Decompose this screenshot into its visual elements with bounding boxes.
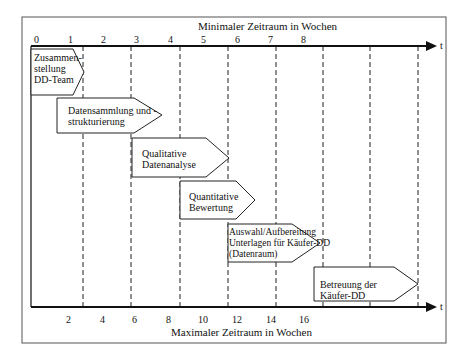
top-axis-title: Minimaler Zeitraum in Wochen	[198, 20, 337, 32]
top-tick-1: 1	[68, 35, 73, 45]
phase-label-5: Auswahl/Aufbereitung Unterlagen für Käuf…	[229, 227, 330, 260]
top-tick-4: 4	[168, 35, 173, 45]
bottom-tick-12: 12	[232, 315, 242, 325]
top-axis-arrowhead-icon	[426, 41, 437, 51]
bottom-tick-4: 4	[100, 315, 105, 325]
bottom-tick-8: 8	[166, 315, 171, 325]
bottom-tick-6: 6	[132, 315, 137, 325]
top-tick-0: 0	[34, 35, 39, 45]
top-tick-7: 7	[268, 35, 273, 45]
bottom-tick-10: 10	[198, 315, 208, 325]
top-tick-3: 3	[134, 35, 139, 45]
phase-label-2: Datensammlung und - strukturierung	[68, 105, 157, 127]
bottom-tick-16: 16	[299, 315, 309, 325]
bottom-tick-2: 2	[66, 315, 71, 325]
top-tick-5: 5	[201, 35, 206, 45]
phase-label-6: Betreuung der Käufer-DD	[320, 279, 377, 301]
top-tick-8: 8	[301, 35, 306, 45]
bottom-axis-arrowhead-icon	[426, 302, 437, 312]
phase-arrows	[31, 49, 418, 301]
top-axis-t-label: t	[440, 41, 443, 51]
top-tick-2: 2	[101, 35, 106, 45]
gantt-diagram: Minimaler Zeitraum in Wochen 0 1 2 3 4 5…	[0, 0, 471, 362]
phase-label-4: Quantitative Bewertung	[189, 191, 238, 213]
phase-label-3: Qualitative Datenanalyse	[142, 148, 196, 170]
phase-label-1: Zusammen- stellung DD-Team	[34, 52, 82, 85]
bottom-axis-title: Maximaler Zeitraum in Wochen	[171, 326, 312, 338]
bottom-tick-14: 14	[266, 315, 276, 325]
bottom-axis-t-label: t	[440, 302, 443, 312]
top-tick-6: 6	[235, 35, 240, 45]
